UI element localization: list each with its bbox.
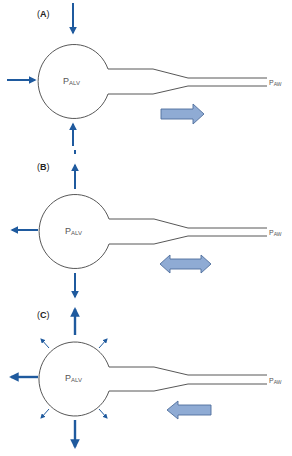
alveolar-pressure-label: PALV bbox=[65, 226, 82, 236]
panel-c: (C) PALV PAW bbox=[11, 309, 282, 447]
force-arrow-diag-up-left-icon bbox=[41, 339, 49, 348]
force-arrow-diag-down-right-icon bbox=[99, 409, 107, 418]
alveolar-pressure-label: PALV bbox=[63, 76, 80, 86]
force-arrow-diag-up-right-icon bbox=[99, 339, 107, 348]
flow-arrow-bidirectional-icon bbox=[160, 255, 211, 273]
panel-c-label: (C) bbox=[37, 310, 50, 320]
panel-b: (B) PALV PAW bbox=[12, 150, 282, 297]
airway-pressure-label: PAW bbox=[269, 377, 282, 385]
panel-a: (A) PALV PAW bbox=[7, 3, 282, 146]
force-arrow-diag-down-left-icon bbox=[41, 409, 49, 418]
panel-b-label: (B) bbox=[37, 162, 50, 172]
airway-pressure-label: PAW bbox=[269, 79, 282, 87]
flow-arrow-left-icon bbox=[167, 401, 211, 419]
airway-pressure-label: PAW bbox=[269, 229, 282, 237]
alveolus-airway-diagram: (A) PALV PAW (B) PALV PAW (C) PALV PAW bbox=[0, 0, 292, 456]
alveolar-pressure-label: PALV bbox=[65, 373, 82, 383]
panel-a-label: (A) bbox=[37, 9, 50, 19]
flow-arrow-right-icon bbox=[161, 104, 204, 124]
